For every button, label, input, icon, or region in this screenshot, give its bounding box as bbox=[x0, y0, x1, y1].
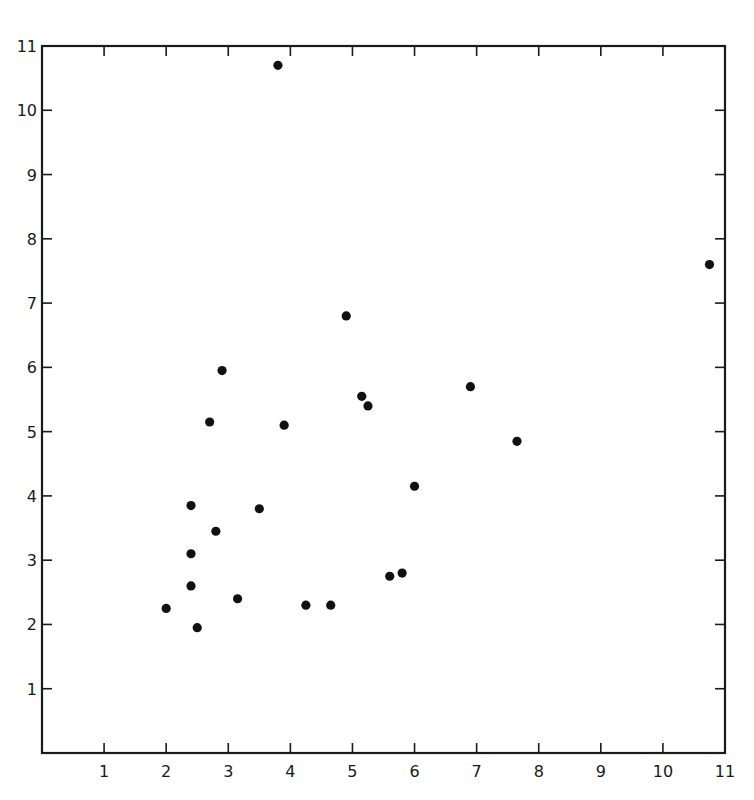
data-point bbox=[342, 311, 351, 320]
data-point bbox=[398, 568, 407, 577]
data-point bbox=[466, 382, 475, 391]
axis-ticks bbox=[42, 46, 725, 753]
x-tick-label: 4 bbox=[285, 762, 295, 781]
y-tick-label: 5 bbox=[27, 423, 37, 442]
data-point bbox=[186, 501, 195, 510]
x-axis-tick-labels: 1234567891011 bbox=[99, 762, 735, 781]
data-point bbox=[357, 392, 366, 401]
data-point bbox=[410, 482, 419, 491]
y-axis-tick-labels: 1234567891011 bbox=[17, 37, 37, 699]
x-tick-label: 1 bbox=[99, 762, 109, 781]
plot-frame bbox=[42, 46, 725, 753]
x-tick-label: 11 bbox=[715, 762, 735, 781]
y-tick-label: 2 bbox=[27, 615, 37, 634]
data-point bbox=[280, 421, 289, 430]
data-point bbox=[205, 417, 214, 426]
data-point bbox=[326, 601, 335, 610]
y-tick-label: 4 bbox=[27, 487, 37, 506]
data-point bbox=[186, 581, 195, 590]
x-tick-label: 3 bbox=[223, 762, 233, 781]
data-point bbox=[255, 504, 264, 513]
data-point bbox=[273, 61, 282, 70]
y-tick-label: 9 bbox=[27, 166, 37, 185]
scatter-plot: 1234567891011 1234567891011 bbox=[0, 0, 754, 800]
data-point bbox=[162, 604, 171, 613]
x-tick-label: 8 bbox=[534, 762, 544, 781]
x-tick-label: 9 bbox=[596, 762, 606, 781]
data-point bbox=[512, 437, 521, 446]
x-tick-label: 2 bbox=[161, 762, 171, 781]
y-tick-label: 10 bbox=[17, 101, 37, 120]
data-point bbox=[385, 572, 394, 581]
x-tick-label: 6 bbox=[409, 762, 419, 781]
x-tick-label: 10 bbox=[653, 762, 673, 781]
axes-box bbox=[42, 46, 725, 753]
data-point bbox=[363, 401, 372, 410]
data-points bbox=[162, 61, 714, 633]
data-point bbox=[193, 623, 202, 632]
x-tick-label: 7 bbox=[472, 762, 482, 781]
data-point bbox=[705, 260, 714, 269]
data-point bbox=[217, 366, 226, 375]
y-tick-label: 3 bbox=[27, 551, 37, 570]
y-tick-label: 1 bbox=[27, 680, 37, 699]
y-tick-label: 8 bbox=[27, 230, 37, 249]
data-point bbox=[186, 549, 195, 558]
x-tick-label: 5 bbox=[347, 762, 357, 781]
y-tick-label: 6 bbox=[27, 358, 37, 377]
y-tick-label: 7 bbox=[27, 294, 37, 313]
data-point bbox=[233, 594, 242, 603]
data-point bbox=[211, 527, 220, 536]
data-point bbox=[301, 601, 310, 610]
y-tick-label: 11 bbox=[17, 37, 37, 56]
